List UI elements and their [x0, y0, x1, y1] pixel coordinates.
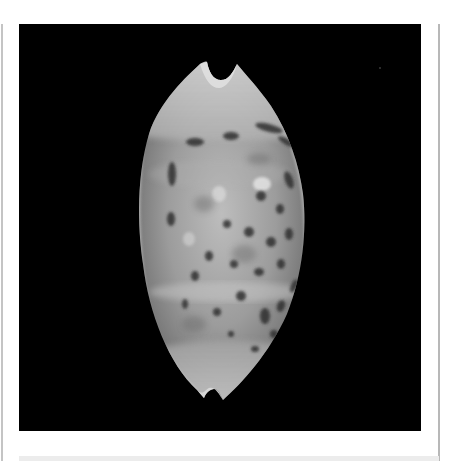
- cowrie-shell-illustration: [19, 24, 421, 431]
- shell-photo: [19, 24, 421, 431]
- bottom-gray-band: [19, 456, 439, 461]
- dust-speck: [379, 67, 381, 69]
- right-border-line: [438, 24, 440, 461]
- left-border-line: [1, 24, 3, 461]
